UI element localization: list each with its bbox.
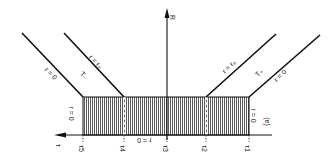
diagram-canvas — [0, 0, 334, 162]
left-boundary-label: r = 0 — [68, 106, 75, 120]
panel-label: (e) — [264, 117, 271, 126]
tau-axis-arrowhead — [54, 133, 66, 138]
tick-label-tau3: τ3 — [162, 145, 169, 152]
hatched-region — [83, 97, 249, 135]
right-boundary-label: r = 0 — [250, 108, 257, 122]
right-outer-line — [249, 35, 320, 97]
center-label: r = 0 — [137, 137, 151, 144]
tick-label-tau5: τ5 — [78, 145, 85, 152]
tau-axis-label: τ — [55, 144, 62, 147]
tick-label-tau4: τ4 — [119, 145, 126, 152]
tick-label-tau1: τ1 — [244, 145, 251, 152]
tick-label-tau2: τ2 — [201, 145, 208, 152]
right-inner-line — [206, 34, 276, 97]
r-axis-label: R — [169, 15, 176, 20]
